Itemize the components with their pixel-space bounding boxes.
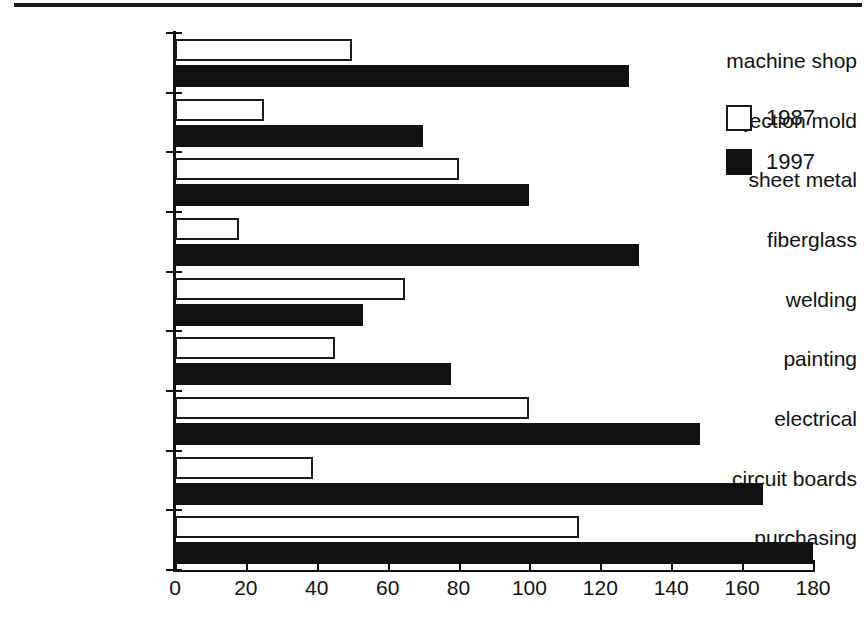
bar-1987-machine-shop [175, 39, 352, 61]
bar-1997-sheet-metal [175, 184, 529, 206]
legend-entry-1997: 1997 [726, 140, 856, 184]
bar-1997-electrical [175, 423, 700, 445]
x-axis-tick-label: 120 [570, 576, 630, 600]
bar-1997-purchasing [175, 542, 813, 564]
x-axis-tick-label: 140 [641, 576, 701, 600]
bar-1997-machine-shop [175, 65, 629, 87]
bar-1997-fiberglass [175, 244, 639, 266]
x-axis-tick-label: 80 [429, 576, 489, 600]
x-axis-tick-label: 160 [712, 576, 772, 600]
x-axis-tick-label: 20 [216, 576, 276, 600]
filled-square-swatch-icon [726, 149, 752, 175]
x-axis-tick-label: 180 [783, 576, 843, 600]
bar-1987-sheet-metal [175, 158, 459, 180]
x-axis-tick-label: 60 [358, 576, 418, 600]
plot-area [175, 33, 813, 570]
open-square-swatch-icon [726, 105, 752, 131]
bar-1987-injection-mold [175, 99, 264, 121]
bar-1987-electrical [175, 397, 529, 419]
bar-1987-circuit-boards [175, 457, 313, 479]
x-axis-tick-label: 40 [287, 576, 347, 600]
bar-1987-fiberglass [175, 218, 239, 240]
chart-legend: 1987 1997 [726, 96, 856, 184]
x-axis-tick [813, 560, 815, 572]
bar-1987-purchasing [175, 516, 579, 538]
grouped-bar-chart: machine shopinjection moldsheet metalfib… [0, 0, 865, 627]
bar-1987-welding [175, 278, 405, 300]
x-axis-tick-label: 100 [499, 576, 559, 600]
x-axis-line [175, 570, 814, 572]
bar-1997-welding [175, 304, 363, 326]
x-axis-tick-label: 0 [145, 576, 205, 600]
legend-entry-1987: 1987 [726, 96, 856, 140]
bar-1997-circuit-boards [175, 483, 763, 505]
legend-label-1997: 1997 [766, 149, 815, 175]
legend-label-1987: 1987 [766, 105, 815, 131]
bar-1987-painting [175, 337, 335, 359]
bar-1997-painting [175, 363, 451, 385]
bar-1997-injection-mold [175, 125, 423, 147]
